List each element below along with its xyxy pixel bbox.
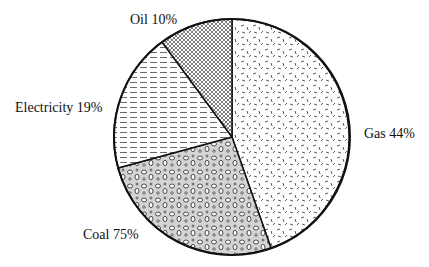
- label-electricity: Electricity 19%: [15, 100, 102, 116]
- label-gas: Gas 44%: [364, 126, 415, 142]
- label-oil: Oil 10%: [130, 12, 177, 28]
- label-coal: Coal 75%: [83, 227, 139, 243]
